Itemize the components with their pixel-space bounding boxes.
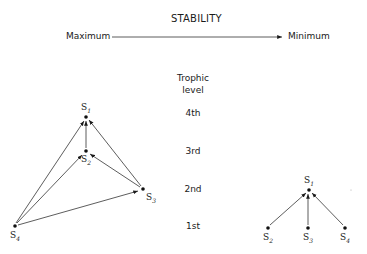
edge-s3-s2 [90, 154, 140, 187]
node-left-s3 [141, 187, 145, 191]
edge-r-s4-s1 [312, 193, 343, 225]
node-left-s1 [84, 115, 88, 119]
right-web-edges [270, 193, 343, 225]
node-right-s4 [343, 226, 347, 230]
speck [351, 190, 352, 191]
label-right-s3: S3 [303, 233, 313, 244]
food-web-diagram [0, 0, 367, 254]
node-right-s2 [266, 226, 270, 230]
node-right-s1 [307, 188, 311, 192]
label-right-s4: S4 [340, 233, 350, 244]
node-left-s4 [13, 224, 17, 228]
edge-s4-s1 [16, 121, 84, 223]
label-right-s2: S2 [263, 233, 273, 244]
label-left-s3: S3 [146, 193, 156, 204]
label-left-s1: S1 [81, 103, 91, 114]
edge-s4-s3 [18, 191, 138, 225]
label-left-s4: S4 [10, 231, 20, 242]
label-left-s2: S2 [81, 155, 91, 166]
left-web-edges [16, 120, 141, 225]
left-web-nodes [13, 115, 145, 228]
node-left-s2 [84, 149, 88, 153]
label-right-s1: S1 [304, 176, 314, 187]
right-web-nodes [266, 188, 347, 230]
node-right-s3 [306, 226, 310, 230]
edge-r-s2-s1 [270, 193, 306, 225]
edge-s3-s1 [89, 120, 141, 186]
edge-s4-s2 [17, 155, 82, 223]
